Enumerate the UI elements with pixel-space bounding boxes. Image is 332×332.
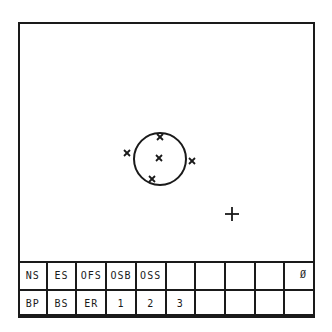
menu-cell-ns[interactable]: NS (18, 263, 48, 291)
menu-cell-zero[interactable]: Ø (285, 263, 315, 291)
x-marker-icon[interactable] (149, 176, 155, 182)
x-marker-icon[interactable] (156, 155, 162, 161)
menu-cell-oss[interactable]: OSS (137, 263, 167, 291)
menu-cell-empty[interactable] (256, 263, 286, 291)
menu-cell-es[interactable]: ES (48, 263, 78, 291)
menu-cell-2[interactable]: 2 (137, 291, 167, 319)
x-marker-icon[interactable] (189, 158, 195, 164)
drawing-canvas[interactable] (20, 24, 313, 261)
menu-cell-bp[interactable]: BP (18, 291, 48, 319)
menu-cell-empty[interactable] (285, 291, 315, 319)
menu-cell-1[interactable]: 1 (107, 291, 137, 319)
menu-cell-osb[interactable]: OSB (107, 263, 137, 291)
crosshair-cursor-icon (225, 207, 239, 221)
menu-cell-er[interactable]: ER (77, 291, 107, 319)
command-menu-grid: NS ES OFS OSB OSS Ø BP BS ER 1 2 3 (18, 261, 315, 318)
menu-cell-empty[interactable] (167, 263, 197, 291)
menu-cell-3[interactable]: 3 (167, 291, 197, 319)
menu-cell-empty[interactable] (196, 291, 226, 319)
drawing-window: NS ES OFS OSB OSS Ø BP BS ER 1 2 3 (18, 22, 315, 316)
menu-cell-empty[interactable] (226, 263, 256, 291)
menu-cell-empty[interactable] (226, 291, 256, 319)
x-marker-icon[interactable] (124, 150, 130, 156)
x-marker-icon[interactable] (157, 134, 163, 140)
menu-cell-ofs[interactable]: OFS (77, 263, 107, 291)
menu-cell-bs[interactable]: BS (48, 291, 78, 319)
menu-cell-empty[interactable] (196, 263, 226, 291)
menu-cell-empty[interactable] (256, 291, 286, 319)
canvas-graphics (20, 24, 315, 261)
